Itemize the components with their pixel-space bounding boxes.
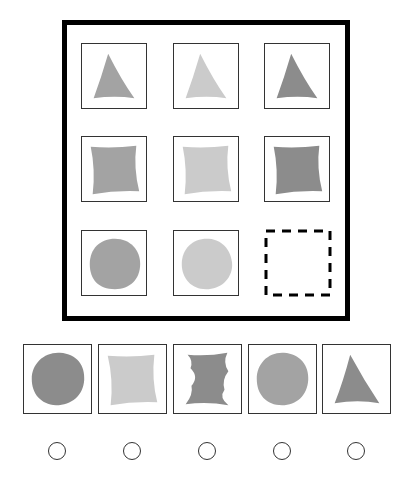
square-icon <box>174 137 238 201</box>
circle-icon <box>174 231 238 295</box>
square-icon <box>265 137 329 201</box>
option-5-triangle-dark[interactable] <box>322 344 391 414</box>
triangle-icon <box>323 345 390 413</box>
cell-r2c1-square-medium <box>81 136 147 202</box>
square-icon <box>99 345 166 413</box>
cell-r1c3-triangle-dark <box>264 43 330 109</box>
square-icon <box>82 137 146 201</box>
cell-r1c1-triangle-medium <box>81 43 147 109</box>
option-2-radio[interactable] <box>123 442 141 460</box>
circle-icon <box>82 231 146 295</box>
cell-r3c2-circle-light <box>173 230 239 296</box>
option-4-radio[interactable] <box>273 442 291 460</box>
triangle-icon <box>265 44 329 108</box>
puzzle-matrix-frame <box>62 20 350 321</box>
cell-r2c3-square-dark <box>264 136 330 202</box>
circle-icon <box>249 345 316 413</box>
option-4-circle-medium[interactable] <box>248 344 317 414</box>
cell-r2c2-square-light <box>173 136 239 202</box>
option-2-square-light[interactable] <box>98 344 167 414</box>
dashed-box-icon <box>264 229 332 297</box>
triangle-icon <box>82 44 146 108</box>
option-5-radio[interactable] <box>347 442 365 460</box>
cell-r3c1-circle-medium <box>81 230 147 296</box>
cell-r1c2-triangle-light <box>173 43 239 109</box>
triangle-icon <box>174 44 238 108</box>
wavy-hourglass-icon <box>174 345 241 413</box>
missing-cell-placeholder <box>264 229 332 297</box>
option-3-hourglass-dark[interactable] <box>173 344 242 414</box>
option-1-circle-dark[interactable] <box>23 344 92 414</box>
circle-icon <box>24 345 91 413</box>
option-1-radio[interactable] <box>48 442 66 460</box>
option-3-radio[interactable] <box>198 442 216 460</box>
